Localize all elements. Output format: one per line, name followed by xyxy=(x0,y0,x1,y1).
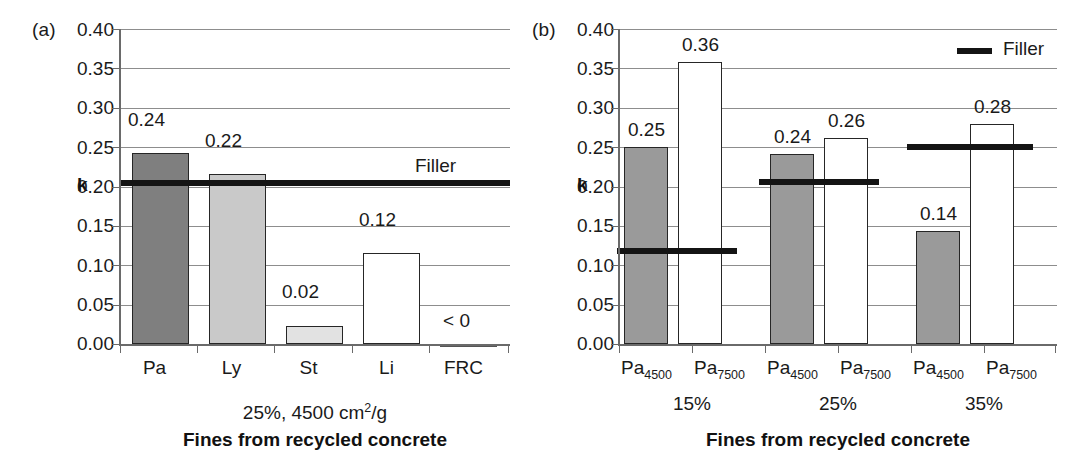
data-label-frc: < 0 xyxy=(414,310,499,332)
panel-a-ytick-0.25: 0.25 xyxy=(58,137,114,159)
group-label-25: 25% xyxy=(765,393,911,415)
bar-35-pa7500[interactable] xyxy=(970,124,1014,344)
xcat-35-pa7500-sub: 7500 xyxy=(1009,368,1037,382)
xcat-st: St xyxy=(270,357,347,379)
panel-a-gridline-0.35 xyxy=(120,68,510,69)
bar-li[interactable] xyxy=(363,253,420,344)
data-label-15-pa4500: 0.25 xyxy=(599,119,694,141)
panel-a-ytick-0.40: 0.40 xyxy=(58,19,114,41)
xcat-25-pa4500: Pa4500 xyxy=(756,357,829,382)
figure-root: (a) k 0.40 0.35 0.30 0.25 0.20 0.15 0.10… xyxy=(0,0,1087,474)
bar-st[interactable] xyxy=(286,326,343,344)
xcat-25-pa7500-sub: 7500 xyxy=(863,368,891,382)
xcat-15-pa7500-base: Pa xyxy=(694,357,717,378)
panel-a-axis-title: Fines from recycled concrete xyxy=(110,429,520,451)
panel-b-x-axis xyxy=(619,344,1057,346)
bar-35-pa4500[interactable] xyxy=(916,231,960,344)
panel-b: (b) k 0.40 0.35 0.30 0.25 0.20 0.15 0.10… xyxy=(520,0,1087,474)
data-label-st: 0.02 xyxy=(258,281,343,303)
panel-b-ytick-0.10: 0.10 xyxy=(558,255,614,277)
panel-b-plot-area xyxy=(619,29,1057,344)
panel-a-ytick-0.35: 0.35 xyxy=(58,58,114,80)
filler-reference-line-15 xyxy=(617,248,737,254)
bar-15-pa7500[interactable] xyxy=(678,62,722,344)
panel-a-gridline-0.25 xyxy=(120,147,510,148)
legend-filler-swatch-icon xyxy=(957,48,992,54)
filler-line-label: Filler xyxy=(415,155,456,177)
panel-a-ytick-0.05: 0.05 xyxy=(58,294,114,316)
bar-25-pa7500[interactable] xyxy=(824,138,868,344)
xcat-25-pa7500: Pa7500 xyxy=(829,357,902,382)
group-label-35: 35% xyxy=(911,393,1057,415)
panel-a-subcaption-pre: 25%, 4500 cm xyxy=(243,402,364,423)
panel-b-ytick-0.20: 0.20 xyxy=(558,176,614,198)
panel-a: (a) k 0.40 0.35 0.30 0.25 0.20 0.15 0.10… xyxy=(0,0,520,474)
data-label-pa: 0.24 xyxy=(104,109,189,131)
panel-b-ytick-0.05: 0.05 xyxy=(558,294,614,316)
xcat-25-pa7500-base: Pa xyxy=(840,357,863,378)
panel-b-ytick-0.40: 0.40 xyxy=(558,19,614,41)
xcat-35-pa7500: Pa7500 xyxy=(975,357,1048,382)
data-label-35-pa4500: 0.14 xyxy=(891,203,986,225)
panel-a-x-axis xyxy=(120,344,510,346)
data-label-ly: 0.22 xyxy=(181,130,266,152)
xcat-15-pa7500-sub: 7500 xyxy=(717,368,745,382)
filler-reference-line xyxy=(120,180,510,186)
panel-a-ytick-0.15: 0.15 xyxy=(58,215,114,237)
panel-b-ytick-0.35: 0.35 xyxy=(558,58,614,80)
bar-15-pa4500[interactable] xyxy=(624,147,668,344)
panel-b-axis-title: Fines from recycled concrete xyxy=(619,429,1057,451)
panel-b-tag: (b) xyxy=(532,19,556,41)
panel-a-subcaption-post: /g xyxy=(371,402,387,423)
filler-reference-line-25 xyxy=(759,179,879,185)
panel-b-ytick-0.15: 0.15 xyxy=(558,215,614,237)
group-label-15: 15% xyxy=(619,393,765,415)
data-label-35-pa7500: 0.28 xyxy=(945,96,1040,118)
panel-a-y-axis xyxy=(119,29,121,346)
panel-b-ytick-0.00: 0.00 xyxy=(558,333,614,355)
panel-b-gridline-0.40 xyxy=(619,29,1057,30)
xcat-35-pa4500: Pa4500 xyxy=(902,357,975,382)
xcat-15-pa4500-sub: 4500 xyxy=(644,368,672,382)
data-label-15-pa7500: 0.36 xyxy=(653,34,748,56)
data-label-25-pa7500: 0.26 xyxy=(799,110,894,132)
filler-reference-line-35 xyxy=(907,144,1033,150)
panel-a-ytick-0.00: 0.00 xyxy=(58,333,114,355)
xcat-ly: Ly xyxy=(193,357,270,379)
panel-a-tag: (a) xyxy=(32,19,56,41)
panel-a-subcaption: 25%, 4500 cm2/g xyxy=(120,401,510,424)
panel-a-gridline-0.40 xyxy=(120,29,510,30)
xcat-25-pa4500-base: Pa xyxy=(767,357,790,378)
xcat-15-pa4500: Pa4500 xyxy=(610,357,683,382)
xcat-35-pa4500-sub: 4500 xyxy=(936,368,964,382)
xcat-15-pa7500: Pa7500 xyxy=(683,357,756,382)
panel-a-ytick-0.20: 0.20 xyxy=(58,176,114,198)
xcat-li: Li xyxy=(348,357,425,379)
xcat-35-pa4500-base: Pa xyxy=(913,357,936,378)
panel-b-y-axis xyxy=(618,29,620,346)
bar-ly[interactable] xyxy=(209,174,266,344)
data-label-li: 0.12 xyxy=(335,209,420,231)
xcat-35-pa7500-base: Pa xyxy=(986,357,1009,378)
xcat-15-pa4500-base: Pa xyxy=(621,357,644,378)
panel-a-ytick-0.10: 0.10 xyxy=(58,255,114,277)
panel-b-ytick-0.30: 0.30 xyxy=(558,97,614,119)
xcat-pa: Pa xyxy=(116,357,193,379)
xcat-frc: FRC xyxy=(425,357,502,379)
legend-filler-label: Filler xyxy=(1003,38,1044,60)
xcat-25-pa4500-sub: 4500 xyxy=(790,368,818,382)
